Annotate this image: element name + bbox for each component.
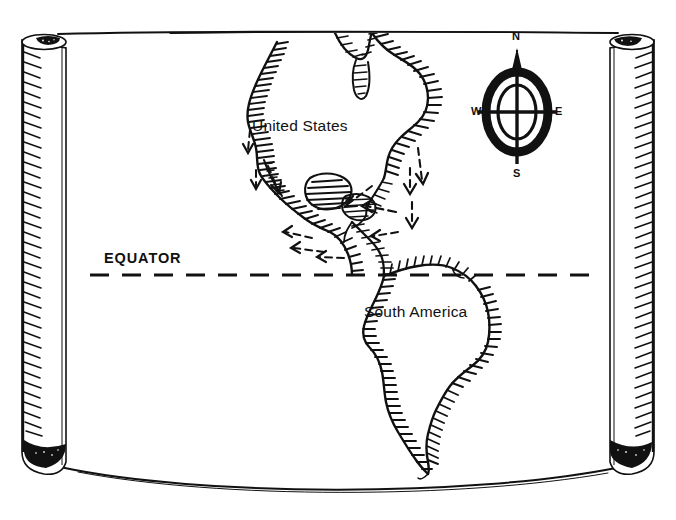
scroll-map-figure: United States South America EQUATOR N S … [0, 0, 676, 520]
compass-east-label: E [555, 105, 562, 117]
scroll-left-roll [22, 35, 66, 475]
scroll-right-roll [610, 35, 654, 475]
compass-south-label: S [513, 167, 520, 179]
label-south-america: South America [364, 303, 467, 321]
label-united-states: United States [252, 117, 348, 135]
compass-north-label: N [512, 30, 520, 42]
map-artwork [0, 0, 676, 520]
compass-west-label: W [471, 105, 481, 117]
label-equator: EQUATOR [104, 250, 181, 266]
